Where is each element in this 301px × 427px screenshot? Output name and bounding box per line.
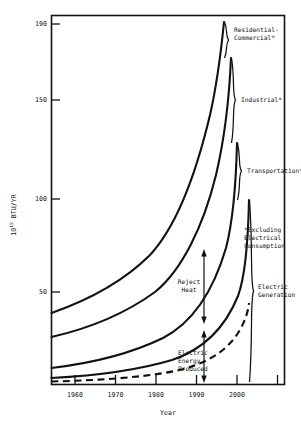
y-axis-tick-labels: 190 150 100 50 xyxy=(35,20,47,296)
y-tick-label-100: 100 xyxy=(35,195,47,203)
energy-projection-chart: 190 150 100 50 1015 BTU/YR 1960 1970 198… xyxy=(0,0,301,427)
x-tick-label-1980: 1980 xyxy=(148,391,164,399)
x-tick-label-1960: 1960 xyxy=(67,391,83,399)
y-tick-label-190: 190 xyxy=(35,20,47,28)
y-axis-title: 1015 BTU/YR xyxy=(9,194,18,235)
x-tick-label-1970: 1970 xyxy=(108,391,124,399)
label-residential-commercial-line1: Residential- xyxy=(234,26,279,33)
chart-svg: 190 150 100 50 1015 BTU/YR 1960 1970 198… xyxy=(0,0,301,427)
svg-text:1015 BTU/YR: 1015 BTU/YR xyxy=(9,194,18,235)
x-axis-title: Year xyxy=(160,409,176,417)
x-tick-label-2000: 2000 xyxy=(229,391,245,399)
label-transportation: Transportation* xyxy=(247,167,301,175)
label-electric-generation-line1: Electric xyxy=(258,283,288,290)
label-produced-line1: Electric xyxy=(178,349,208,356)
label-produced-line2: Energy xyxy=(178,357,201,365)
footnote-line2: Electrical xyxy=(244,234,282,241)
label-electric-generation-line2: Generation xyxy=(258,291,296,298)
label-reject-heat-line2: Heat xyxy=(182,286,197,293)
label-produced-line3: Produced xyxy=(178,365,208,372)
x-tick-label-1990: 1990 xyxy=(189,391,205,399)
label-reject-heat-line1: Reject xyxy=(178,278,201,286)
footnote-line3: Consumption xyxy=(244,242,285,250)
y-axis-title-base: 10 xyxy=(10,228,18,236)
x-axis-tick-labels: 1960 1970 1980 1990 2000 xyxy=(67,391,245,399)
label-residential-commercial-line2: Commercial* xyxy=(234,34,275,41)
y-tick-label-150: 150 xyxy=(35,96,47,104)
footnote-line1: *Excluding xyxy=(244,226,282,234)
y-axis-title-unit: BTU/YR xyxy=(10,194,18,222)
label-industrial: Industrial* xyxy=(241,96,282,103)
y-tick-label-50: 50 xyxy=(39,288,47,296)
